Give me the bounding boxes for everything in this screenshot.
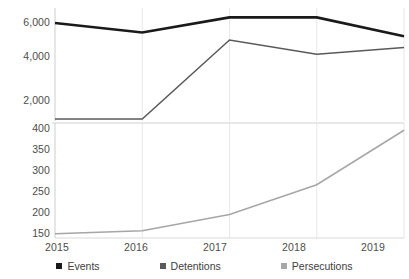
legend-label-persecutions: Persecutions — [292, 260, 353, 272]
legend-item-persecutions[interactable]: Persecutions — [281, 260, 353, 272]
legend-item-events[interactable]: Events — [56, 260, 99, 272]
chart-container: 6,000 4,000 2,000 400 350 300 250 200 15… — [0, 0, 409, 279]
chart-legend: Events Detentions Persecutions — [0, 258, 409, 274]
legend-label-detentions: Detentions — [171, 260, 221, 272]
legend-swatch-detentions — [160, 263, 166, 269]
legend-label-events: Events — [67, 260, 99, 272]
legend-swatch-persecutions — [281, 263, 287, 269]
legend-swatch-events — [56, 263, 62, 269]
plot-area — [0, 0, 409, 279]
legend-item-detentions[interactable]: Detentions — [160, 260, 221, 272]
